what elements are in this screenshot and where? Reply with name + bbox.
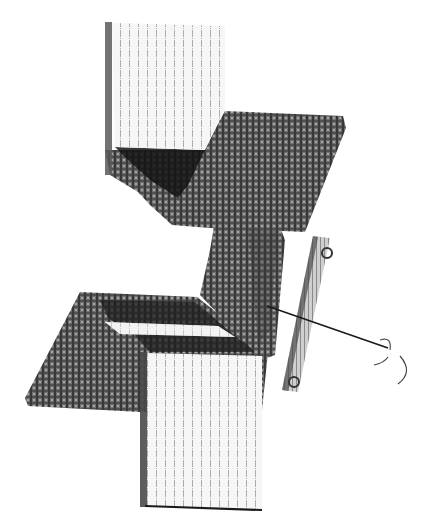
folded-panels-figure — [0, 0, 424, 523]
bottom-light-panel — [140, 352, 262, 510]
